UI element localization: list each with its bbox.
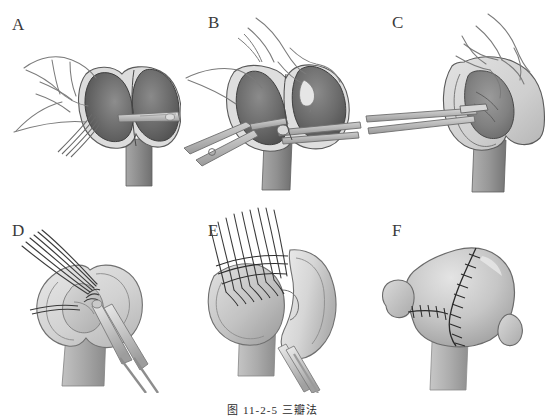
- figure-root: A: [0, 0, 545, 416]
- figure-caption: 图 11-2-5 三瓣法: [0, 401, 545, 416]
- panel-c-illustration: [364, 0, 545, 195]
- panel-b: B: [182, 0, 363, 195]
- panel-d: D: [0, 198, 181, 393]
- organ-shaft-f: [430, 340, 468, 390]
- panel-b-illustration: [182, 0, 363, 195]
- panel-a-illustration: [0, 0, 181, 195]
- panel-e: E: [182, 198, 363, 393]
- panel-c: C: [364, 0, 545, 195]
- panel-a: A: [0, 0, 181, 195]
- panel-f-illustration: [364, 198, 545, 393]
- curved-flap-e: [281, 250, 336, 359]
- panel-e-illustration: [182, 198, 363, 393]
- right-tail-f: [498, 314, 522, 346]
- panel-d-illustration: [0, 198, 181, 393]
- panel-f: F: [364, 198, 545, 393]
